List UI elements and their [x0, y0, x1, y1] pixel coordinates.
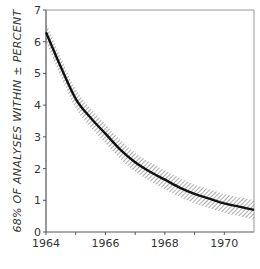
chart: 1964196619681970 01234567 68% OF ANALYSE…	[0, 0, 260, 269]
y-tick-label: 0	[34, 226, 41, 239]
y-tick-label: 3	[34, 131, 41, 144]
y-tick-label: 5	[34, 67, 41, 80]
y-tick-label: 6	[34, 36, 41, 49]
y-tick-label: 7	[34, 4, 41, 17]
trend-line	[46, 32, 254, 210]
hatched-band	[46, 23, 254, 220]
y-tick-label: 2	[34, 163, 41, 176]
x-axis-ticks: 1964196619681970	[32, 232, 238, 250]
y-axis-label: 68% OF ANALYSES WITHIN ± PERCENT	[11, 8, 24, 232]
y-axis-ticks: 01234567	[34, 4, 46, 239]
y-tick-label: 4	[34, 99, 41, 112]
y-tick-label: 1	[34, 194, 41, 207]
x-tick-label: 1968	[151, 237, 179, 250]
x-tick-label: 1966	[91, 237, 119, 250]
uncertainty-band	[46, 23, 254, 220]
trend-curve	[46, 32, 254, 210]
x-tick-label: 1970	[210, 237, 238, 250]
